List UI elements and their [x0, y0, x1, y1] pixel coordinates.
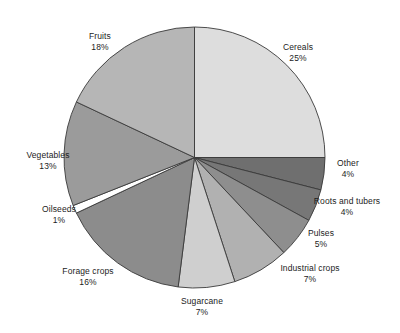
slice-label-industrial-crops-value: 7%: [258, 274, 362, 285]
slice-label-fruits: Fruits 18%: [74, 31, 126, 53]
slice-label-fruits-name: Fruits: [74, 31, 126, 42]
slice-label-pulses-name: Pulses: [292, 228, 350, 239]
slice-label-other: Other 4%: [318, 158, 378, 180]
slice-label-pulses: Pulses 5%: [292, 228, 350, 250]
slice-label-sugarcane-value: 7%: [160, 307, 244, 318]
slice-label-cereals-name: Cereals: [255, 42, 341, 53]
slice-label-fruits-value: 18%: [74, 42, 126, 53]
slice-label-roots-and-tubers-name: Roots and tubers: [297, 196, 397, 207]
slice-label-industrial-crops: Industrial crops 7%: [258, 263, 362, 285]
slice-label-other-value: 4%: [318, 169, 378, 180]
slice-label-forage-crops-name: Forage crops: [44, 266, 132, 277]
slice-label-sugarcane: Sugarcane 7%: [160, 296, 244, 318]
slice-label-industrial-crops-name: Industrial crops: [258, 263, 362, 274]
slice-label-roots-and-tubers-value: 4%: [297, 207, 397, 218]
pie-chart: Cereals 25% Other 4% Roots and tubers 4%…: [0, 0, 400, 333]
slice-label-sugarcane-name: Sugarcane: [160, 296, 244, 307]
slice-label-cereals: Cereals 25%: [255, 42, 341, 64]
slice-label-cereals-value: 25%: [255, 53, 341, 64]
slice-label-vegetables-name: Vegetables: [10, 150, 86, 161]
slice-label-pulses-value: 5%: [292, 239, 350, 250]
slice-label-oilseeds-value: 1%: [28, 215, 90, 226]
slice-label-other-name: Other: [318, 158, 378, 169]
slice-label-roots-and-tubers: Roots and tubers 4%: [297, 196, 397, 218]
slice-label-oilseeds-name: Oilseeds: [28, 204, 90, 215]
slice-label-forage-crops-value: 16%: [44, 277, 132, 288]
slice-label-forage-crops: Forage crops 16%: [44, 266, 132, 288]
slice-label-oilseeds: Oilseeds 1%: [28, 204, 90, 226]
slice-label-vegetables-value: 13%: [10, 161, 86, 172]
pie-slice-group: [64, 27, 325, 288]
slice-label-vegetables: Vegetables 13%: [10, 150, 86, 172]
